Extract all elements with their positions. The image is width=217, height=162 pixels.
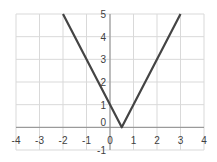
x-tick-label: 3 — [178, 135, 184, 146]
y-tick-label: 4 — [100, 32, 106, 43]
x-tick-label: -2 — [59, 135, 68, 146]
line-chart: -4-3-2-101234 -1012345 — [0, 0, 217, 162]
y-tick-label: 5 — [100, 9, 106, 20]
y-tick-label: 0 — [100, 117, 106, 128]
x-tick-label: -4 — [12, 135, 21, 146]
x-tick-labels: -4-3-2-101234 — [12, 135, 208, 146]
y-tick-label: 2 — [100, 77, 106, 88]
x-tick-label: 0 — [107, 135, 113, 146]
x-tick-label: -1 — [82, 135, 91, 146]
y-tick-label: 1 — [100, 100, 106, 111]
series-layer — [63, 14, 181, 127]
y-tick-label: 3 — [100, 54, 106, 65]
data-line — [63, 14, 181, 127]
x-tick-label: 1 — [131, 135, 137, 146]
x-tick-label: 4 — [201, 135, 207, 146]
x-tick-label: 2 — [154, 135, 160, 146]
y-tick-label: -1 — [97, 145, 106, 156]
x-tick-label: -3 — [35, 135, 44, 146]
